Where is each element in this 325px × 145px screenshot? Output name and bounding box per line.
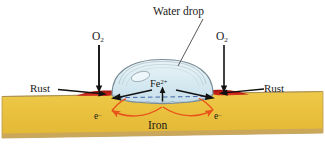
ferrous-ion-charge: 2+	[161, 78, 168, 85]
label-electron-left: e−	[94, 112, 102, 122]
label-ferrous-ion: Fe2+	[150, 79, 167, 90]
water-drop-leader-line	[178, 19, 203, 66]
rusting-diagram: Water drop O2 O2 Rust Rust Fe2+ Iron e− …	[0, 0, 325, 145]
label-oxygen-left: O2	[92, 31, 104, 43]
label-iron: Iron	[148, 120, 167, 132]
label-oxygen-right: O2	[216, 31, 228, 43]
electron-left-charge: −	[98, 112, 101, 118]
label-rust-left: Rust	[30, 83, 50, 94]
label-water-drop: Water drop	[153, 6, 204, 18]
oxygen-right-subscript: 2	[224, 36, 228, 44]
label-electron-right: e−	[214, 112, 222, 122]
oxygen-left-subscript: 2	[100, 36, 104, 44]
water-drop-leader	[178, 19, 203, 66]
ferrous-ion-symbol: Fe	[150, 78, 161, 89]
label-rust-right: Rust	[264, 83, 284, 94]
electron-right-charge: −	[218, 112, 221, 118]
